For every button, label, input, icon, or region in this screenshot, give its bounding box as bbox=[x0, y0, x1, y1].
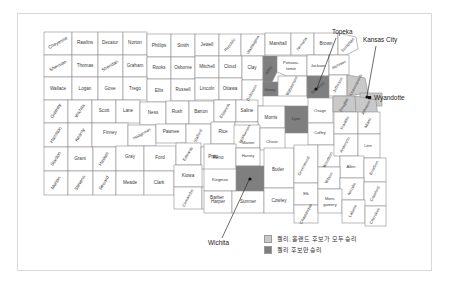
label-clay: Clay bbox=[247, 65, 257, 70]
label-phillips: Phillips bbox=[152, 43, 167, 48]
legend-item-kelly[interactable]: 켈리 후보만 승리 bbox=[264, 246, 414, 254]
wichita-label: Wichita bbox=[208, 239, 229, 246]
label-ford: Ford bbox=[155, 155, 165, 160]
label-pottawatomie-2: tomie bbox=[286, 66, 297, 71]
label-ottawa: Ottawa bbox=[223, 86, 238, 91]
label-rush: Rush bbox=[172, 109, 183, 114]
label-geary: Geary bbox=[265, 87, 276, 92]
label-sumner: Sumner bbox=[240, 199, 257, 204]
label-thomas: Thomas bbox=[77, 63, 94, 68]
label-lane: Lane bbox=[123, 108, 134, 113]
label-lyon: Lyon bbox=[292, 116, 301, 121]
label-butler: Butler bbox=[272, 167, 284, 172]
label-barton: Barton bbox=[194, 109, 208, 114]
label-kiowa: Kiowa bbox=[182, 173, 195, 178]
label-jewell: Jewell bbox=[201, 42, 214, 47]
kansas-election-map-figure: Cheyenne Rawlins Decatur Norton Phillips… bbox=[0, 0, 450, 290]
legend-label-kelly: 켈리 후보만 승리 bbox=[277, 247, 322, 253]
label-wallace: Wallace bbox=[50, 86, 67, 91]
label-osage: Osage bbox=[314, 108, 327, 113]
label-osborne: Osborne bbox=[174, 65, 192, 70]
legend-label-both: 켈리, 홀랜드 후보가 모두 승리 bbox=[277, 236, 357, 242]
label-smith: Smith bbox=[177, 43, 189, 48]
label-morris: Morris bbox=[265, 115, 278, 120]
label-coffey: Coffey bbox=[314, 130, 326, 135]
wichita-marker bbox=[248, 177, 251, 180]
wyandotte-label: Wyandotte bbox=[374, 94, 405, 102]
map-legend: 켈리, 홀랜드 후보가 모두 승리 켈리 후보만 승리 bbox=[264, 235, 414, 257]
label-jackson: Jackson bbox=[311, 63, 326, 68]
label-meade: Meade bbox=[123, 180, 137, 185]
label-marion: Marion bbox=[242, 140, 254, 145]
label-gray: Gray bbox=[125, 154, 136, 159]
label-elk: Elk bbox=[303, 191, 309, 196]
label-brown: Brown bbox=[319, 41, 332, 46]
label-rice: Rice bbox=[218, 129, 228, 134]
legend-swatch-both-icon bbox=[264, 235, 272, 243]
label-cowley: Cowley bbox=[271, 198, 287, 203]
label-rooks: Rooks bbox=[152, 65, 166, 70]
label-harper: Harper bbox=[211, 199, 226, 204]
label-reno: Reno bbox=[213, 155, 224, 160]
legend-item-both[interactable]: 켈리, 홀랜드 후보가 모두 승리 bbox=[264, 235, 414, 243]
label-saline: Saline bbox=[241, 108, 254, 113]
label-rawlins: Rawlins bbox=[77, 40, 94, 45]
label-montgomery-2: gomery bbox=[323, 202, 336, 207]
label-scott: Scott bbox=[99, 108, 110, 113]
label-gove: Gove bbox=[105, 86, 116, 91]
label-norton: Norton bbox=[128, 40, 142, 45]
label-graham: Graham bbox=[127, 63, 144, 68]
label-kingman: Kingman bbox=[212, 177, 228, 182]
kansas-city-leader bbox=[367, 46, 376, 96]
label-pottawatomie-1: Pottawa- bbox=[283, 60, 299, 65]
label-grant: Grant bbox=[74, 156, 86, 161]
wyandotte-marker bbox=[368, 96, 371, 99]
label-pawnee: Pawnee bbox=[163, 129, 180, 134]
topeka-label: Topeka bbox=[332, 28, 353, 36]
label-marshall: Marshall bbox=[269, 41, 286, 46]
label-cloud: Cloud bbox=[224, 64, 236, 69]
label-logan: Logan bbox=[79, 86, 92, 91]
label-finney: Finney bbox=[103, 130, 117, 135]
label-lincoln: Lincoln bbox=[200, 86, 215, 91]
label-allen: Allen bbox=[347, 164, 356, 169]
label-trego: Trego bbox=[129, 86, 141, 91]
label-russell: Russell bbox=[175, 87, 190, 92]
kansas-city-label: Kansas City bbox=[363, 36, 398, 44]
label-harvey: Harvey bbox=[242, 153, 255, 158]
label-clark: Clark bbox=[154, 180, 165, 185]
label-montgomery-1: Mont- bbox=[325, 196, 336, 201]
topeka-marker bbox=[314, 87, 317, 90]
legend-swatch-kelly-icon bbox=[264, 246, 272, 254]
label-ness: Ness bbox=[148, 110, 159, 115]
label-linn: Linn bbox=[364, 143, 372, 148]
label-mitchell: Mitchell bbox=[199, 64, 215, 69]
label-chase: Chase bbox=[266, 139, 278, 144]
label-decatur: Decatur bbox=[102, 40, 119, 45]
label-ellis: Ellis bbox=[155, 88, 164, 93]
